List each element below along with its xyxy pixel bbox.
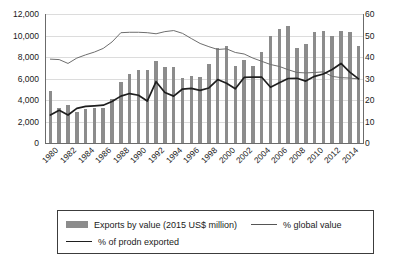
- x-axis-tick: 2010: [305, 145, 325, 165]
- y-axis-right-tick: 10: [365, 117, 374, 126]
- bar-swatch-icon: [66, 221, 88, 228]
- y-axis-left-labels: 02,0004,0006,0008,00010,00012,000: [0, 14, 42, 143]
- y-axis-right-tick: 40: [365, 53, 374, 62]
- line-thick-swatch-icon: [66, 241, 92, 242]
- x-axis-tick: 1996: [181, 145, 201, 165]
- x-axis-tick: 1988: [111, 145, 131, 165]
- x-axis-labels: 1980198219841986198819901992199419961998…: [45, 145, 362, 197]
- legend-item-global-value: % global value: [251, 220, 342, 230]
- x-axis-tick: 1980: [40, 145, 60, 165]
- plot-area-wrapper: 02,0004,0006,0008,00010,00012,000 010203…: [0, 0, 410, 200]
- x-axis-tick: 1986: [93, 145, 113, 165]
- y-axis-right-tick: 60: [365, 10, 374, 19]
- y-axis-left-tick: 4,000: [18, 96, 39, 105]
- y-axis-right-labels: 0102030405060: [362, 14, 404, 143]
- x-axis-tick: 2004: [252, 145, 272, 165]
- y-axis-right-tick: 0: [365, 139, 370, 148]
- y-axis-left-tick: 6,000: [18, 74, 39, 83]
- y-axis-left-tick: 2,000: [18, 117, 39, 126]
- legend-label-exports-by-value: Exports by value (2015 US$ million): [94, 220, 237, 230]
- x-axis-tick: 2012: [322, 145, 342, 165]
- x-axis-tick: 1990: [128, 145, 148, 165]
- line-thin-swatch-icon: [251, 224, 277, 225]
- y-axis-left-tick: 8,000: [18, 53, 39, 62]
- x-axis-tick: 1982: [58, 145, 78, 165]
- x-axis-tick: 2000: [216, 145, 236, 165]
- chart-root: 02,0004,0006,0008,00010,00012,000 010203…: [0, 0, 410, 264]
- legend-row-2: % of prodn exported: [66, 233, 365, 250]
- y-axis-left-tick: 10,000: [13, 31, 39, 40]
- x-axis-tick: 1984: [76, 145, 96, 165]
- x-axis-tick: 1998: [199, 145, 219, 165]
- chart-legend: Exports by value (2015 US$ million) % gl…: [57, 210, 374, 254]
- x-axis-tick: 2008: [287, 145, 307, 165]
- x-axis-tick: 1992: [146, 145, 166, 165]
- x-axis-tick: 1994: [164, 145, 184, 165]
- line-series-group: [46, 14, 363, 143]
- y-axis-right-tick: 30: [365, 74, 374, 83]
- plot-panel: [45, 14, 364, 144]
- x-axis-tick: 2014: [340, 145, 360, 165]
- legend-row-1: Exports by value (2015 US$ million) % gl…: [66, 216, 365, 233]
- x-axis-tick: 2002: [234, 145, 254, 165]
- x-axis-tick: 2006: [269, 145, 289, 165]
- legend-label-prodn-exported: % of prodn exported: [98, 237, 179, 247]
- line-global-value: [50, 31, 358, 79]
- legend-label-global-value: % global value: [283, 220, 342, 230]
- y-axis-left-tick: 12,000: [13, 10, 39, 19]
- legend-item-prodn-exported: % of prodn exported: [66, 237, 179, 247]
- y-axis-right-tick: 50: [365, 31, 374, 40]
- y-axis-right-tick: 20: [365, 96, 374, 105]
- line-prodn-exported: [50, 63, 358, 115]
- legend-item-exports-by-value: Exports by value (2015 US$ million): [66, 220, 237, 230]
- y-axis-left-tick: 0: [34, 139, 39, 148]
